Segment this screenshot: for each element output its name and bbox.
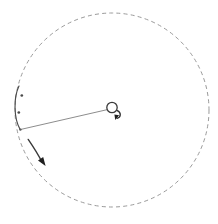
- pivot-rotation-arrow: [117, 111, 120, 119]
- diagram-canvas: [0, 0, 218, 224]
- pivot-hub: [107, 102, 117, 112]
- diagram-svg: [0, 0, 218, 224]
- rod-end-point: [19, 128, 21, 130]
- rod-segment: [21, 109, 111, 130]
- rod-end-motion-arrow: [28, 139, 42, 162]
- sweep-tick-upper: [20, 94, 23, 97]
- rod-end-motion-arrowhead: [38, 157, 46, 166]
- sweep-tick-lower: [17, 111, 20, 114]
